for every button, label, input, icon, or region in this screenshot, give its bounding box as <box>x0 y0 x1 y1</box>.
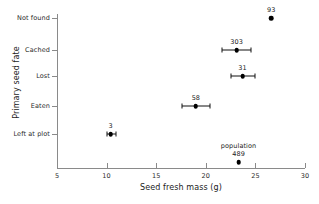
seed-fate-scatter-chart: 51015202530 Not foundCachedLostEatenLeft… <box>0 0 319 204</box>
y-axis-line <box>57 14 58 168</box>
x-axis-tick <box>255 163 256 168</box>
error-bar-cap <box>209 104 210 109</box>
y-axis-category-label: Cached <box>25 46 50 54</box>
y-axis-title: Primary seed fate <box>12 23 21 143</box>
population-reference-marker <box>236 160 241 165</box>
y-axis-tick <box>52 50 57 51</box>
x-axis-tick <box>206 163 207 168</box>
y-axis-tick <box>52 106 57 107</box>
data-point-sample-size-label: 31 <box>238 64 246 72</box>
y-axis-category-label: Not found <box>17 14 50 22</box>
data-point-marker <box>194 104 199 109</box>
error-bar-cap <box>181 104 182 109</box>
data-point-sample-size-label: 58 <box>192 94 200 102</box>
population-group-label: population <box>221 142 257 150</box>
population-sample-size-label: 489 <box>232 150 245 158</box>
x-axis-tick-label: 30 <box>301 172 309 180</box>
y-axis-tick <box>52 134 57 135</box>
x-axis-tick <box>305 163 306 168</box>
x-axis-line <box>57 168 305 169</box>
error-bar-cap <box>255 74 256 79</box>
x-axis-tick <box>107 163 108 168</box>
data-point-marker <box>269 16 274 21</box>
data-point-marker <box>108 132 113 137</box>
data-point-marker <box>240 74 245 79</box>
error-bar-cap <box>106 132 107 137</box>
x-axis-title: Seed fresh mass (g) <box>57 183 305 192</box>
x-axis-tick-label: 5 <box>55 172 59 180</box>
x-axis-tick-label: 15 <box>152 172 160 180</box>
y-axis-tick <box>52 18 57 19</box>
data-point-marker <box>234 48 239 53</box>
error-bar-cap <box>115 132 116 137</box>
x-axis-tick-label: 20 <box>202 172 210 180</box>
y-axis-tick <box>52 76 57 77</box>
error-bar-cap <box>230 74 231 79</box>
y-axis-tick-labels: Not foundCachedLostEatenLeft at plot <box>0 0 50 204</box>
x-axis-tick-label: 25 <box>251 172 259 180</box>
x-axis-tick <box>57 163 58 168</box>
y-axis-category-label: Eaten <box>31 102 50 110</box>
y-axis-category-label: Lost <box>36 72 50 80</box>
data-point-sample-size-label: 3 <box>108 122 112 130</box>
error-bar-cap <box>251 48 252 53</box>
error-bar-cap <box>221 48 222 53</box>
x-axis-tick-label: 10 <box>102 172 110 180</box>
x-axis-tick <box>156 163 157 168</box>
data-point-sample-size-label: 303 <box>230 38 243 46</box>
data-point-sample-size-label: 93 <box>267 6 275 14</box>
